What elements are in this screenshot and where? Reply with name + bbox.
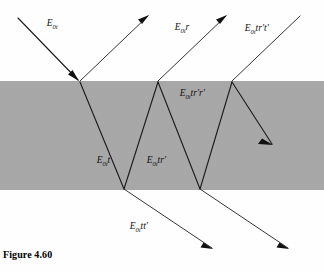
label-exit-top-1: E0itr′t′ bbox=[228, 23, 281, 35]
figure-root: E0i E0ir E0itr′t′ E0itr′r′ E0it E0itr′ E… bbox=[0, 0, 324, 272]
label-internal-t: E0it bbox=[80, 155, 122, 167]
exit-ray-bottom-2-arrowhead bbox=[277, 243, 290, 250]
exit-ray-bottom-1 bbox=[124, 189, 212, 248]
exit-ray-top-1-arrowhead bbox=[216, 15, 227, 24]
label-incident: E0i bbox=[30, 18, 69, 31]
dielectric-slab bbox=[0, 81, 324, 190]
optics-slab-diagram: E0i E0ir E0itr′t′ E0itr′r′ E0it E0itr′ E… bbox=[0, 0, 324, 272]
exit-ray-bottom-2 bbox=[200, 189, 288, 248]
label-internal-double: E0itr′r′ bbox=[163, 88, 217, 100]
label-reflected: E0ir bbox=[158, 22, 201, 34]
reflected-ray-arrowhead bbox=[138, 15, 149, 24]
label-exit-bottom-1: E0itt′ bbox=[113, 221, 160, 233]
figure-caption: Figure 4.60 bbox=[3, 249, 52, 260]
exit-ray-bottom-1-arrowhead bbox=[201, 243, 214, 250]
reflected-ray bbox=[80, 16, 148, 81]
